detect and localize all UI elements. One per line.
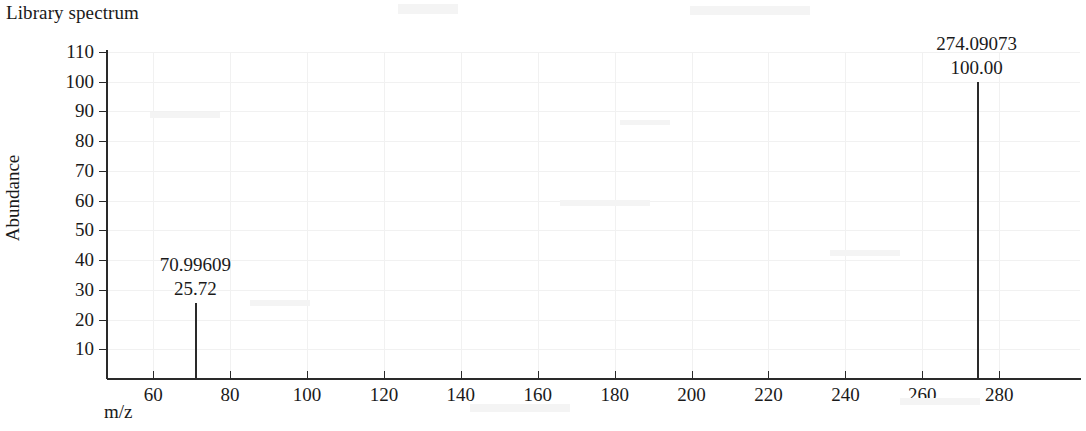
x-tick-mark — [692, 371, 693, 380]
scan-artifact — [470, 404, 570, 412]
x-tick-label: 240 — [815, 384, 875, 406]
scan-artifact — [900, 398, 980, 405]
gridline-vertical — [615, 52, 616, 379]
gridline-vertical — [692, 52, 693, 379]
x-tick-label: 100 — [277, 384, 337, 406]
x-tick-label: 200 — [662, 384, 722, 406]
x-tick-mark — [230, 371, 231, 380]
y-tick-label: 90 — [50, 101, 94, 120]
scan-artifact — [830, 250, 900, 256]
gridline-horizontal — [107, 141, 1080, 142]
peak-label: 70.9960925.72 — [95, 253, 295, 301]
x-tick-mark — [845, 371, 846, 380]
x-tick-label: 220 — [738, 384, 798, 406]
x-tick-mark — [768, 371, 769, 380]
y-tick-label: 80 — [50, 131, 94, 150]
x-tick-mark — [461, 371, 462, 380]
gridline-horizontal — [107, 349, 1080, 350]
x-tick-label: 180 — [585, 384, 645, 406]
x-tick-label: 120 — [354, 384, 414, 406]
y-tick-label: 50 — [50, 220, 94, 239]
y-tick-label: 20 — [50, 310, 94, 329]
x-axis-spine — [107, 378, 1081, 380]
gridline-vertical — [461, 52, 462, 379]
y-tick-label: 60 — [50, 191, 94, 210]
gridline-horizontal — [107, 82, 1080, 83]
y-tick-mark — [99, 141, 108, 142]
y-tick-mark — [99, 201, 108, 202]
x-axis-label: m/z — [104, 401, 133, 422]
scan-artifact — [150, 112, 220, 118]
peak-mz-value: 274.09073 — [877, 32, 1077, 56]
gridline-vertical — [153, 52, 154, 379]
y-axis-label: Abundance — [0, 28, 26, 368]
y-axis-tick-labels: 102030405060708090100110 — [44, 0, 94, 431]
x-tick-mark — [999, 371, 1000, 380]
y-tick-mark — [99, 82, 108, 83]
y-tick-mark — [99, 52, 108, 53]
scan-artifact — [560, 200, 650, 206]
gridline-vertical — [307, 52, 308, 379]
y-tick-mark — [99, 349, 108, 350]
gridline-vertical — [768, 52, 769, 379]
x-tick-mark — [307, 371, 308, 380]
gridline-horizontal — [107, 171, 1080, 172]
y-tick-label: 70 — [50, 161, 94, 180]
x-tick-mark — [384, 371, 385, 380]
gridline-horizontal — [107, 111, 1080, 112]
scan-artifact — [250, 300, 310, 306]
y-tick-label: 110 — [50, 42, 94, 61]
x-tick-label: 80 — [200, 384, 260, 406]
x-tick-mark — [922, 371, 923, 380]
y-tick-mark — [99, 320, 108, 321]
x-tick-mark — [153, 371, 154, 380]
plot-area — [107, 52, 1080, 379]
x-tick-label: 140 — [431, 384, 491, 406]
mass-spectrum-figure: Library spectrum Abundance 1020304050607… — [0, 0, 1086, 431]
gridline-vertical — [845, 52, 846, 379]
gridline-horizontal — [107, 320, 1080, 321]
peak-mz-value: 70.99609 — [95, 253, 295, 277]
y-tick-mark — [99, 111, 108, 112]
y-axis-spine — [106, 50, 108, 379]
peak-label: 274.09073100.00 — [877, 32, 1077, 80]
peak-bar — [977, 82, 979, 379]
gridline-vertical — [384, 52, 385, 379]
peak-intensity-value: 25.72 — [95, 277, 295, 301]
y-tick-mark — [99, 230, 108, 231]
gridline-vertical — [999, 52, 1000, 379]
gridline-horizontal — [107, 230, 1080, 231]
gridline-vertical — [922, 52, 923, 379]
gridline-vertical — [538, 52, 539, 379]
x-tick-mark — [615, 371, 616, 380]
y-tick-label: 100 — [50, 72, 94, 91]
y-tick-label: 40 — [50, 250, 94, 269]
scan-artifact — [620, 120, 670, 125]
y-axis-label-text: Abundance — [3, 155, 23, 242]
y-tick-label: 10 — [50, 339, 94, 358]
scan-artifact — [398, 4, 458, 14]
y-tick-mark — [99, 171, 108, 172]
scan-artifact — [690, 6, 810, 15]
x-tick-label: 160 — [508, 384, 568, 406]
x-tick-mark — [538, 371, 539, 380]
y-tick-label: 30 — [50, 280, 94, 299]
gridline-vertical — [230, 52, 231, 379]
peak-bar — [195, 303, 197, 379]
peak-intensity-value: 100.00 — [877, 56, 1077, 80]
